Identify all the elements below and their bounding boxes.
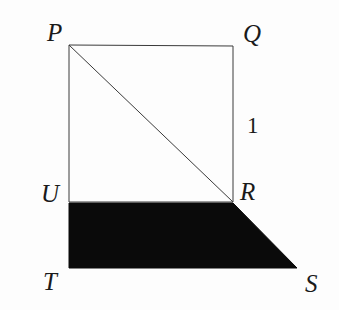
geometry-canvas: [0, 0, 339, 310]
vertex-label-t: T: [43, 269, 57, 294]
geometry-figure: P Q U R T S 1: [0, 0, 339, 310]
vertex-label-p: P: [47, 20, 62, 45]
side-length-annotation: 1: [247, 114, 259, 137]
shaded-trapezoid-urst: [69, 203, 297, 268]
vertex-label-q: Q: [243, 21, 261, 46]
diagonal-line-pr: [69, 45, 233, 202]
vertex-label-u: U: [41, 181, 59, 206]
vertex-label-r: R: [240, 179, 255, 204]
vertex-label-s: S: [305, 271, 318, 296]
